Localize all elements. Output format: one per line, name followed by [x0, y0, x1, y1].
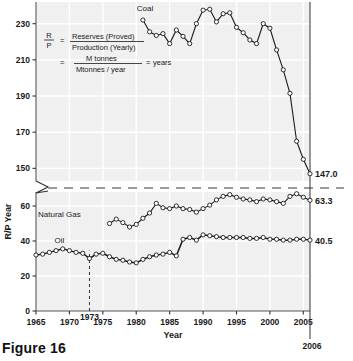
x-tick-label: 1980	[127, 317, 146, 327]
data-point	[134, 222, 138, 226]
axis-break-marker	[36, 181, 48, 193]
data-point	[301, 195, 305, 199]
formula-ratio-denominator: P	[46, 41, 51, 50]
data-point	[47, 250, 51, 254]
data-point	[194, 238, 198, 242]
x-tick-label: 1970	[60, 317, 79, 327]
figure-caption: Figure 16	[2, 340, 66, 356]
data-point	[214, 198, 218, 202]
series-label-natural-gas: Natural Gas	[38, 210, 81, 219]
y-tick-label-upper: 190	[16, 91, 30, 101]
x-tick-label: 1985	[160, 317, 179, 327]
data-point	[141, 257, 145, 261]
marker-label-1973: 1973	[80, 312, 99, 322]
x-tick-label: 2000	[260, 317, 279, 327]
edge-label-2006: 2006	[303, 341, 322, 351]
formula-line2-numerator: M tonnes	[86, 54, 117, 63]
data-point	[161, 206, 165, 210]
data-point	[261, 197, 265, 201]
end-value-coal: 147.0	[315, 169, 338, 179]
data-point	[194, 22, 198, 26]
y-tick-label-lower: 40	[21, 236, 31, 246]
data-point	[81, 251, 85, 255]
y-tick-label-lower: 0	[25, 306, 30, 316]
data-point	[268, 198, 272, 202]
y-axis-title: R/P Year	[3, 203, 13, 240]
data-point	[234, 235, 238, 239]
data-point	[248, 236, 252, 240]
data-point	[274, 48, 278, 52]
data-point	[228, 11, 232, 15]
data-point	[121, 258, 125, 262]
data-point	[295, 139, 299, 143]
data-point	[281, 201, 285, 205]
data-point	[274, 237, 278, 241]
x-tick-label: 1995	[227, 317, 246, 327]
data-point	[188, 41, 192, 45]
data-point	[201, 8, 205, 12]
data-point	[288, 91, 292, 95]
data-point	[201, 233, 205, 237]
data-point	[301, 157, 305, 161]
data-point	[241, 197, 245, 201]
y-tick-label-upper: 170	[16, 127, 30, 137]
data-point	[261, 235, 265, 239]
data-point	[254, 236, 258, 240]
data-point	[268, 26, 272, 30]
data-point	[94, 252, 98, 256]
data-point	[274, 200, 278, 204]
data-point	[261, 22, 265, 26]
y-tick-label-upper: 210	[16, 55, 30, 65]
data-point	[34, 253, 38, 257]
data-point	[148, 255, 152, 259]
y-tick-label-upper: 230	[16, 19, 30, 29]
data-point	[248, 198, 252, 202]
data-point	[308, 238, 312, 242]
data-point	[141, 18, 145, 22]
data-point	[281, 68, 285, 72]
y-tick-label-upper: 150	[16, 163, 30, 173]
y-tick-label-lower: 60	[21, 201, 31, 211]
data-point	[168, 250, 172, 254]
data-point	[234, 25, 238, 29]
data-point	[154, 201, 158, 205]
data-point	[228, 235, 232, 239]
end-value-natural-gas: 63.3	[315, 196, 333, 206]
formula-line2-denominator: Mtonnes / year	[76, 65, 126, 74]
data-point	[295, 192, 299, 196]
data-point	[288, 238, 292, 242]
data-point	[174, 254, 178, 258]
formula-line1-denominator: Production (Yearly)	[72, 43, 136, 52]
data-point	[161, 32, 165, 36]
data-point	[254, 41, 258, 45]
data-point	[221, 12, 225, 16]
data-point	[148, 30, 152, 34]
formula-result: years	[153, 58, 172, 67]
data-point	[248, 38, 252, 42]
series-label-oil: Oil	[54, 236, 64, 245]
data-point	[241, 31, 245, 35]
data-point	[174, 28, 178, 32]
data-point	[308, 198, 312, 202]
rp-ratio-chart: 1501701902102300204060196519701975198019…	[0, 0, 353, 361]
data-point	[288, 194, 292, 198]
data-point	[168, 41, 172, 45]
data-point	[107, 255, 111, 259]
data-point	[154, 253, 158, 257]
data-point	[54, 249, 58, 253]
data-point	[188, 235, 192, 239]
data-point	[121, 221, 125, 225]
data-point	[87, 256, 91, 260]
data-point	[148, 211, 152, 215]
data-point	[194, 210, 198, 214]
x-tick-label: 1990	[194, 317, 213, 327]
data-point	[61, 247, 65, 251]
data-point	[114, 257, 118, 261]
figure-container: 1501701902102300204060196519701975198019…	[0, 0, 353, 361]
data-point	[268, 237, 272, 241]
data-point	[41, 252, 45, 256]
data-point	[127, 225, 131, 229]
data-point	[181, 237, 185, 241]
data-point	[301, 237, 305, 241]
data-point	[228, 193, 232, 197]
